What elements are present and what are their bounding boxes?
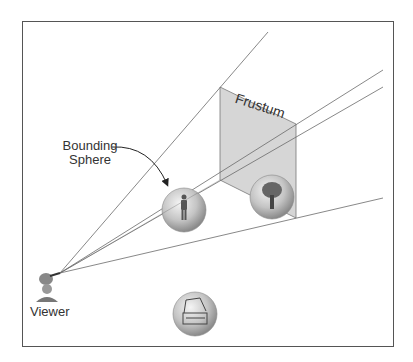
bounding-sphere-label-line2: Sphere xyxy=(62,153,118,167)
bounding-sphere-label-line1: Bounding xyxy=(62,139,118,153)
bounding-sphere-label: Bounding Sphere xyxy=(62,139,118,167)
bounding-sphere-tree xyxy=(250,175,294,219)
viewer-icon xyxy=(36,273,60,302)
ray-bottom xyxy=(60,198,383,273)
bounding-sphere-arrow xyxy=(112,147,167,184)
bounding-sphere-person xyxy=(60,180,220,273)
viewer-label: Viewer xyxy=(30,305,70,319)
bounding-sphere-chest xyxy=(173,292,217,336)
